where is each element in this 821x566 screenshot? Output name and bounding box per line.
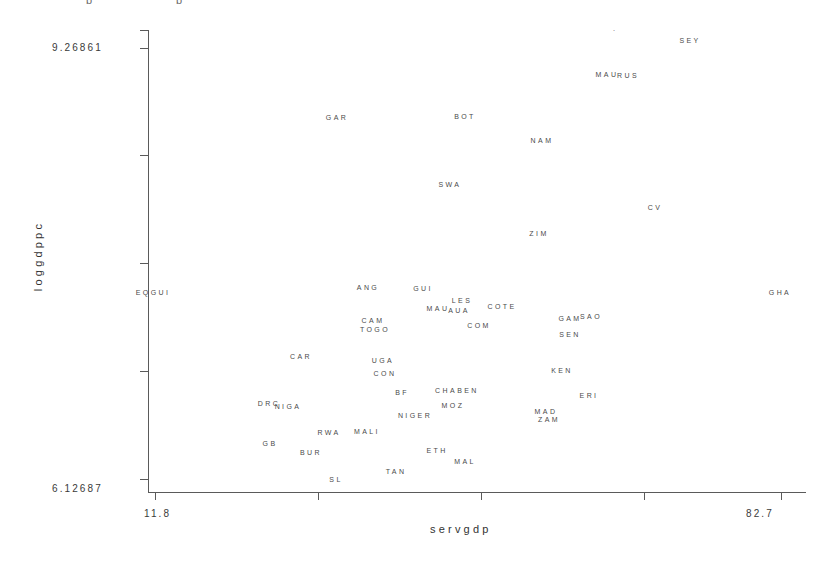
data-point-label: MAU — [596, 71, 619, 78]
data-point-label: UGA — [372, 357, 394, 364]
data-point-label: ZAM — [538, 416, 560, 423]
data-point-label: SL — [329, 476, 342, 483]
data-point-label: CAM — [362, 317, 385, 324]
data-point-label: COM — [467, 322, 491, 329]
data-point-label: BUR — [300, 449, 322, 456]
data-point-label: NIGA — [275, 403, 302, 410]
data-point-label: MAL — [454, 458, 476, 465]
data-point-label: AUA — [448, 307, 470, 314]
data-point-label: EQGUI — [136, 289, 171, 296]
data-point-label: SEY — [679, 37, 700, 44]
data-point-label: ANG — [357, 284, 379, 291]
data-point-label: ZIM — [529, 230, 548, 237]
data-point-label: TOGO — [360, 326, 390, 333]
data-point-label: COTE — [487, 303, 516, 310]
data-point-label: NAM — [531, 137, 554, 144]
data-point-label: BF — [395, 389, 409, 396]
data-point-label: CHA — [435, 387, 457, 394]
data-point-label: ́ — [615, 31, 617, 38]
data-point-label: MALI — [354, 428, 380, 435]
data-point-label: GHA — [769, 289, 791, 296]
data-point-label: CAR — [290, 353, 312, 360]
data-point-label: BEN — [457, 387, 479, 394]
data-point-label: ERI — [580, 392, 599, 399]
data-point-label: RWA — [317, 429, 340, 436]
data-point-label: MAD — [535, 408, 558, 415]
data-point-layer: SEÝMAURUSGARBOTNAMSWACVZIMEQGUIANGGUIGH… — [0, 0, 821, 566]
data-point-label: MAU — [427, 305, 450, 312]
data-point-label: SWA — [439, 181, 462, 188]
data-point-label: CV — [648, 204, 663, 211]
data-point-label: GUI — [413, 285, 433, 292]
data-point-label: GAR — [326, 114, 348, 121]
data-point-label: NIGER — [398, 412, 432, 419]
data-point-label: TAN — [386, 468, 407, 475]
data-point-label: RUS — [617, 72, 639, 79]
data-point-label: SEN — [559, 331, 581, 338]
data-point-label: BOT — [454, 113, 476, 120]
data-point-label: GB — [263, 440, 278, 447]
data-point-label: SAO — [580, 313, 602, 320]
data-point-label: MOZ — [442, 402, 465, 409]
data-point-label: ETH — [426, 447, 447, 454]
data-point-label: CON — [374, 370, 397, 377]
data-point-label: LES — [452, 297, 472, 304]
data-point-label: KEN — [551, 367, 573, 374]
scatter-plot-canvas: p p 9.26861 6.12687 11.8 82.7 servgdp lo… — [0, 0, 821, 566]
data-point-label: GAM — [558, 315, 581, 322]
